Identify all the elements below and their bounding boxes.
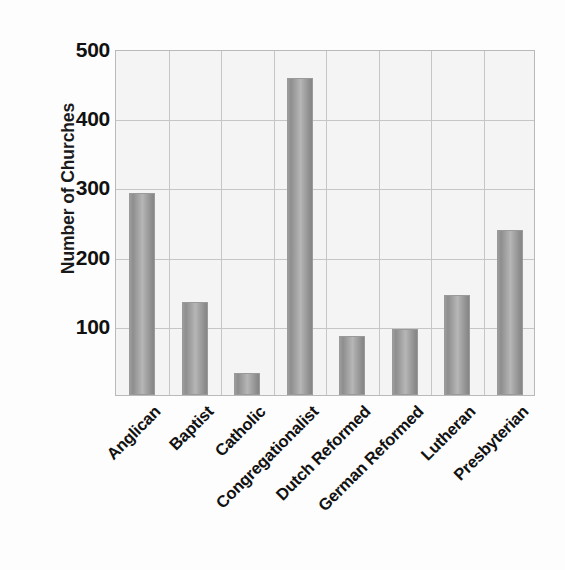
y-tick-label-300: 300 (58, 177, 110, 198)
x-axis-tick-labels: AnglicanBaptistCatholicCongregationalist… (0, 396, 565, 570)
bar-dutch-reformed (339, 336, 365, 395)
y-tick-label-500: 500 (58, 39, 110, 60)
bar-baptist (182, 302, 208, 395)
bar-slot (169, 51, 222, 395)
y-tick-label-100: 100 (58, 316, 110, 337)
bar-chart: Number of Churches 100200300400500 Angli… (0, 0, 565, 570)
bar-german-reformed (392, 329, 418, 395)
bar-slot (116, 51, 169, 395)
bar-slot (379, 51, 432, 395)
y-tick-label-200: 200 (58, 247, 110, 268)
bar-slot (326, 51, 379, 395)
bar-slot (221, 51, 274, 395)
bar-slot (431, 51, 484, 395)
bar-slot (274, 51, 327, 395)
bar-presbyterian (497, 230, 523, 395)
bar-catholic (234, 373, 260, 395)
bar-lutheran (444, 295, 470, 395)
bar-anglican (129, 193, 155, 395)
bar-slot (484, 51, 537, 395)
bar-congregationalist (287, 78, 313, 395)
plot-area (115, 50, 535, 396)
y-tick-label-400: 400 (58, 108, 110, 129)
